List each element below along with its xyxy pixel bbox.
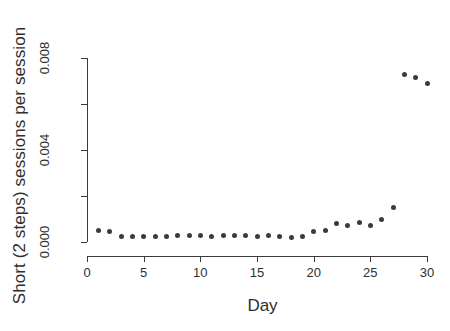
x-axis-tick bbox=[144, 256, 145, 262]
data-point bbox=[153, 234, 158, 239]
x-axis-tick bbox=[314, 256, 315, 262]
data-point bbox=[221, 233, 226, 238]
x-axis-tick-label: 15 bbox=[232, 265, 282, 280]
x-axis-tick-label: 5 bbox=[119, 265, 169, 280]
x-axis-tick-label: 25 bbox=[345, 265, 395, 280]
data-point bbox=[413, 75, 418, 80]
data-point bbox=[164, 234, 169, 239]
x-axis-tick bbox=[200, 256, 201, 262]
data-point bbox=[334, 221, 339, 226]
y-axis-tick-label: 0.000 bbox=[37, 212, 53, 272]
data-point bbox=[187, 233, 192, 238]
plot-area: 0.0000.0040.008051015202530 bbox=[0, 0, 450, 331]
x-axis-tick bbox=[87, 256, 88, 262]
data-point bbox=[391, 205, 396, 210]
x-axis-tick bbox=[257, 256, 258, 262]
scatter-plot-figure: Short (2 steps) sessions per session Day… bbox=[0, 0, 450, 331]
data-point bbox=[311, 229, 316, 234]
y-axis-tick bbox=[81, 150, 87, 151]
y-axis-tick bbox=[81, 196, 87, 197]
data-point bbox=[300, 234, 305, 239]
data-point bbox=[107, 229, 112, 234]
data-point bbox=[96, 228, 101, 233]
x-axis-tick-label: 20 bbox=[289, 265, 339, 280]
y-axis-tick bbox=[81, 58, 87, 59]
data-point bbox=[141, 234, 146, 239]
data-point bbox=[323, 228, 328, 233]
data-point bbox=[368, 223, 373, 228]
data-point bbox=[209, 234, 214, 239]
y-axis-tick bbox=[81, 242, 87, 243]
data-point bbox=[255, 234, 260, 239]
data-point bbox=[357, 220, 362, 225]
x-axis-tick bbox=[427, 256, 428, 262]
data-point bbox=[243, 233, 248, 238]
data-point bbox=[345, 223, 350, 228]
y-axis-tick-label: 0.008 bbox=[37, 28, 53, 88]
data-point bbox=[130, 234, 135, 239]
data-point bbox=[289, 235, 294, 240]
x-axis-tick bbox=[370, 256, 371, 262]
data-point bbox=[402, 72, 407, 77]
x-axis-tick-label: 0 bbox=[62, 265, 112, 280]
data-point bbox=[266, 233, 271, 238]
y-axis-tick bbox=[81, 104, 87, 105]
data-point bbox=[175, 233, 180, 238]
data-point bbox=[198, 233, 203, 238]
data-point bbox=[119, 234, 124, 239]
x-axis-tick-label: 10 bbox=[175, 265, 225, 280]
data-point bbox=[232, 233, 237, 238]
data-point bbox=[379, 217, 384, 222]
y-axis-tick-label: 0.004 bbox=[37, 120, 53, 180]
x-axis-tick-label: 30 bbox=[402, 265, 450, 280]
data-point bbox=[425, 81, 430, 86]
y-axis-line bbox=[87, 58, 88, 242]
data-point bbox=[277, 234, 282, 239]
